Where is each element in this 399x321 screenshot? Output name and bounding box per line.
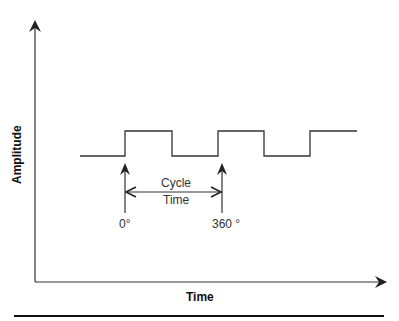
square-wave-diagram: [0, 0, 399, 321]
cycle-label-line2: Time: [163, 193, 189, 207]
cycle-label-line1: Cycle: [161, 176, 191, 190]
square-wave: [80, 131, 357, 156]
y-axis-title: Amplitude: [10, 126, 24, 184]
end-marker-label: 360 °: [212, 217, 240, 231]
x-axis-title: Time: [186, 290, 214, 304]
start-marker-label: 0°: [119, 217, 130, 231]
